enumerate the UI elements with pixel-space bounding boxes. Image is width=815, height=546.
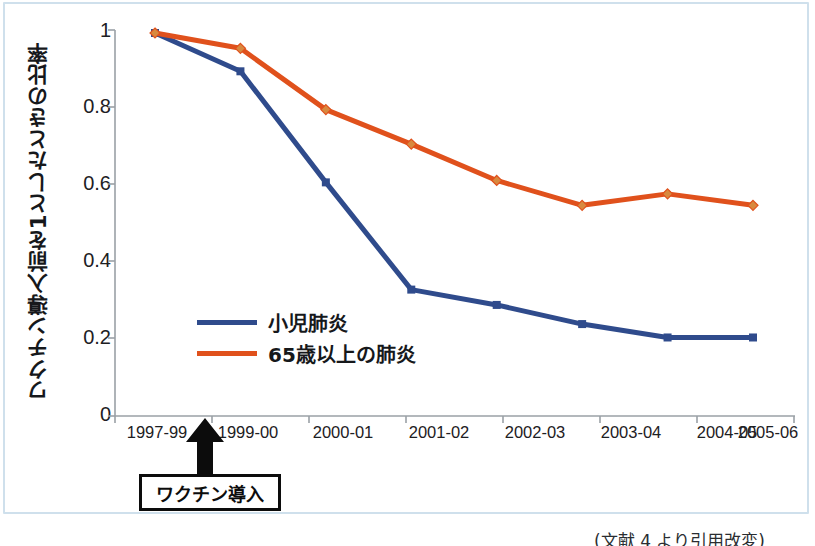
x-tick-label: 2003-04 bbox=[601, 423, 662, 442]
data-point-marker bbox=[578, 320, 586, 328]
y-tick-marks bbox=[108, 30, 115, 416]
data-point-marker bbox=[322, 178, 330, 186]
x-tick-label: 2001-02 bbox=[409, 423, 470, 442]
x-axis-tick-labels: 1997-99 1999-00 2000-01 2001-02 2002-03 … bbox=[5, 423, 811, 451]
legend-swatch-blue bbox=[197, 320, 257, 325]
legend-label: 小児肺炎 bbox=[268, 308, 348, 337]
x-tick-label: 1999-00 bbox=[218, 423, 279, 442]
series-elderly-pneumonia bbox=[150, 28, 758, 210]
legend-label: 65歳以上の肺炎 bbox=[268, 339, 416, 368]
legend-swatch-orange bbox=[197, 351, 257, 356]
chart-legend: 小児肺炎 65歳以上の肺炎 bbox=[197, 307, 497, 369]
series-line bbox=[155, 33, 753, 337]
source-credit: (文献 4 より引用改変) bbox=[5, 527, 811, 546]
plot-area: ワクチン導入前を1としたときの比率 1 0.8 0.6 0.4 0.2 0 bbox=[5, 4, 807, 512]
x-tick-label: 2002-03 bbox=[505, 423, 566, 442]
data-point-marker bbox=[407, 286, 415, 294]
x-tick-label: 2000-01 bbox=[313, 423, 374, 442]
x-tick-label: 1997-99 bbox=[127, 423, 188, 442]
series-child-pneumonia bbox=[151, 29, 757, 341]
vaccine-introduction-arrow-icon bbox=[184, 418, 226, 480]
data-point-marker bbox=[749, 333, 757, 341]
chart-frame: ワクチン導入前を1としたときの比率 1 0.8 0.6 0.4 0.2 0 bbox=[3, 2, 809, 514]
series-layer bbox=[150, 28, 758, 341]
legend-item-elderly-pneumonia: 65歳以上の肺炎 bbox=[197, 338, 497, 369]
series-line bbox=[155, 33, 753, 205]
data-point-marker bbox=[748, 200, 758, 210]
x-tick-label: 2005-06 bbox=[738, 423, 799, 442]
chart-page: ワクチン導入前を1としたときの比率 1 0.8 0.6 0.4 0.2 0 bbox=[0, 0, 815, 546]
data-point-marker bbox=[236, 67, 244, 75]
legend-item-child-pneumonia: 小児肺炎 bbox=[197, 307, 497, 338]
vaccine-introduction-callout: ワクチン導入 bbox=[139, 474, 281, 511]
vaccine-introduction-label: ワクチン導入 bbox=[156, 480, 264, 506]
data-point-marker bbox=[664, 333, 672, 341]
data-point-marker bbox=[663, 189, 673, 199]
